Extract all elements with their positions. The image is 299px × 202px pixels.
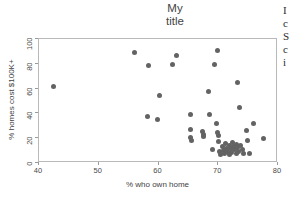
x-axis-tick: [158, 162, 159, 165]
y-axis-tick-label: 40: [29, 112, 38, 127]
x-axis-tick-label: 60: [143, 166, 173, 175]
side-text-line: c: [283, 17, 299, 30]
x-axis-tick-label: 50: [83, 166, 113, 175]
data-point: [244, 128, 249, 133]
side-text-line: i: [283, 56, 299, 69]
scatter-chart-figure: My title 4050607080020406080100 % who ow…: [0, 0, 282, 202]
data-point: [247, 151, 252, 156]
data-point: [245, 138, 250, 143]
side-text-line: I: [283, 4, 299, 17]
x-axis-tick: [98, 162, 99, 165]
data-point: [174, 53, 179, 58]
data-point: [212, 62, 217, 67]
data-point: [189, 138, 194, 143]
data-point: [145, 114, 150, 119]
data-point: [237, 105, 242, 110]
data-point: [51, 84, 56, 89]
data-point: [132, 50, 137, 55]
data-point: [214, 121, 219, 126]
x-axis-tick: [217, 162, 218, 165]
data-point: [201, 134, 206, 139]
y-axis-tick-label: 80: [29, 62, 38, 77]
data-point: [235, 80, 240, 85]
x-axis-tick-label: 70: [202, 166, 232, 175]
data-point: [251, 121, 256, 126]
x-axis-tick: [277, 162, 278, 165]
side-text-line: S: [283, 30, 299, 43]
x-axis-tick-label: 80: [262, 166, 292, 175]
y-axis-tick-label: 60: [29, 87, 38, 102]
data-point: [207, 112, 212, 117]
data-point: [146, 63, 151, 68]
y-axis-label: % homes cost $100K+: [7, 35, 16, 165]
side-text-line: c: [283, 43, 299, 56]
data-point: [216, 133, 221, 138]
data-point: [188, 127, 193, 132]
data-point: [170, 62, 175, 67]
data-point: [155, 117, 160, 122]
plot-area: [38, 38, 277, 162]
data-point: [241, 151, 246, 156]
screenshot-root: My title 4050607080020406080100 % who ow…: [0, 0, 299, 202]
x-axis-label: % who own home: [38, 180, 277, 189]
chart-title: My title: [120, 2, 230, 27]
x-axis-tick: [38, 162, 39, 165]
data-point: [157, 93, 162, 98]
data-point: [261, 136, 266, 141]
y-axis-tick-label: 20: [29, 137, 38, 152]
data-point: [215, 48, 220, 53]
data-point: [206, 89, 211, 94]
data-point: [188, 112, 193, 117]
page-side-text: IcSci: [283, 4, 299, 74]
data-point: [210, 147, 215, 152]
y-axis-tick-label: 100: [29, 38, 38, 53]
y-axis-tick-label: 0: [29, 162, 38, 177]
